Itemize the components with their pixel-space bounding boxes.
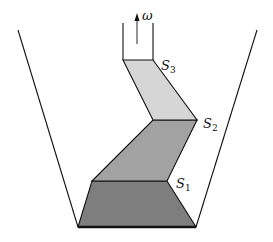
flow-arrow-head-icon [135, 13, 140, 21]
surface-label-s1: S1 [176, 176, 191, 193]
vessel-diagram: ω S3 S2 S1 [0, 0, 273, 242]
arrow-label-omega: ω [142, 8, 153, 23]
surface-label-s3: S3 [161, 58, 176, 75]
layer-2-region [92, 120, 197, 181]
surface-label-s2: S2 [203, 116, 218, 133]
container-left-wall [18, 30, 78, 227]
layer-3-region [123, 60, 197, 120]
diagram-canvas: ω S3 S2 S1 [0, 0, 273, 242]
